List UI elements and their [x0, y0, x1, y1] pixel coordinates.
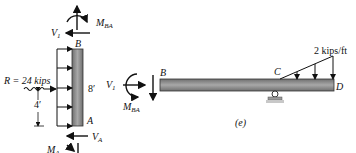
column-bottom-label: A	[86, 115, 94, 126]
figure-caption: (e)	[235, 117, 247, 129]
bottom-moment-arc-icon	[67, 145, 74, 151]
structural-fbd-diagram: MBA V1 B R = 24 kips 4′ 8′ A VA MA	[0, 0, 356, 153]
bottom-shear-label: VA	[92, 131, 103, 144]
column-member	[72, 49, 83, 126]
column-length-label: 8′	[88, 83, 95, 94]
beam-right-label: D	[335, 81, 344, 92]
beam-member	[160, 79, 334, 91]
beam-free-body: V1 MBA B 2 kips/ft C D (e)	[106, 45, 347, 129]
roller-support-icon	[266, 91, 284, 103]
load-intensity-label: 2 kips/ft	[314, 45, 347, 56]
left-moment-label: MBA	[122, 101, 141, 114]
beam-mid-label: C	[274, 66, 281, 77]
resultant-height-label: 4′	[34, 99, 41, 110]
top-shear-label: V1	[51, 27, 61, 40]
load-triangle-edge	[280, 56, 333, 79]
left-shear-label: V1	[106, 79, 116, 92]
resultant-label: R = 24 kips	[3, 75, 51, 86]
top-moment-label: MBA	[95, 17, 114, 30]
beam-left-label: B	[160, 67, 166, 78]
column-free-body: MBA V1 B R = 24 kips 4′ 8′ A VA MA	[3, 6, 114, 153]
resultant-wavy-arrow-icon	[24, 88, 56, 91]
column-top-label: B	[75, 38, 81, 49]
bottom-moment-label: MA	[46, 144, 60, 153]
